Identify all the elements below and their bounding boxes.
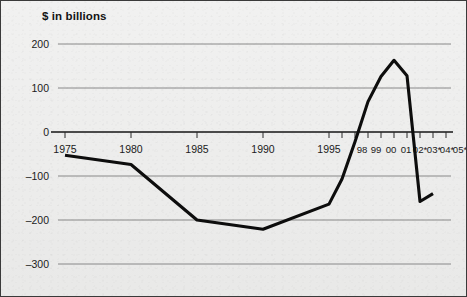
- ytick-label-neg200: –200: [26, 214, 50, 226]
- xtick-label-1995: 1995: [317, 143, 341, 155]
- ytick-label-group: 200 100 0 –100 –200 –300: [26, 38, 50, 270]
- ytick-label-neg100: –100: [26, 170, 50, 182]
- xtick-label-1998: 98: [357, 144, 368, 155]
- xtick-label-group: 1975 1980 1985 1990 1995 98 99 00 01 02*…: [53, 143, 467, 155]
- ytick-label-100: 100: [31, 82, 49, 94]
- chart-figure: $ in billions: [0, 0, 467, 297]
- xtick-label-1999: 99: [371, 144, 382, 155]
- xtick-label-2005: 05*: [453, 144, 467, 155]
- xtick-label-1990: 1990: [251, 143, 275, 155]
- xtick-mark-group: [65, 132, 446, 138]
- xtick-label-2001: 01: [401, 144, 412, 155]
- xtick-label-2000: 00: [386, 144, 397, 155]
- ytick-label-0: 0: [43, 126, 49, 138]
- ytick-label-neg300: –300: [26, 258, 50, 270]
- xtick-label-1980: 1980: [119, 143, 143, 155]
- ytick-label-200: 200: [31, 38, 49, 50]
- xtick-label-1985: 1985: [185, 143, 209, 155]
- xtick-label-1975: 1975: [53, 143, 77, 155]
- line-chart-plot: 200 100 0 –100 –200 –300 1975 1980 1985 …: [1, 1, 467, 297]
